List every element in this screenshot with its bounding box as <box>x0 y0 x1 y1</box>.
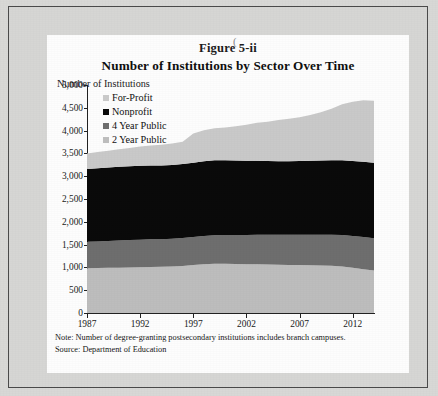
x-tick-label: 1987 <box>78 319 97 329</box>
legend-label-four-year-public: 4 Year Public <box>112 120 167 131</box>
x-tick-mark <box>300 314 301 318</box>
source-line: Source: Department of Education <box>55 344 346 356</box>
y-tick-label: 3,000 <box>62 171 83 181</box>
note-line: Note: Number of degree-granting postseco… <box>55 332 346 344</box>
legend-item-nonprofit: Nonprofit <box>103 105 167 118</box>
x-tick-label: 2007 <box>290 319 309 329</box>
legend-swatch-four-year-public <box>103 123 109 129</box>
legend-label-two-year-public: 2 Year Public <box>112 134 167 145</box>
legend-swatch-for-profit <box>103 95 109 101</box>
y-tick-label: 2,000 <box>62 217 83 227</box>
x-tick-mark <box>87 314 88 318</box>
document-page: ( Figure 5-ii Number of Institutions by … <box>47 35 409 373</box>
y-tick-label: 5,000 <box>62 80 83 90</box>
y-tick-label: 0 <box>78 308 83 318</box>
legend-label-nonprofit: Nonprofit <box>112 106 152 117</box>
y-tick-label: 3,500 <box>62 148 83 158</box>
y-tick-label: 1,000 <box>62 262 83 272</box>
x-tick-label: 1992 <box>131 319 150 329</box>
y-tick-label: 2,500 <box>62 194 83 204</box>
legend-item-four-year-public: 4 Year Public <box>103 119 167 132</box>
chart-legend: For-Profit Nonprofit 4 Year Public 2 Yea… <box>103 91 167 147</box>
area-series-2-year-public <box>87 264 374 313</box>
legend-item-for-profit: For-Profit <box>103 91 167 104</box>
x-tick-mark <box>353 314 354 318</box>
x-tick-mark <box>246 314 247 318</box>
legend-swatch-two-year-public <box>103 137 109 143</box>
document-frame: ( Figure 5-ii Number of Institutions by … <box>8 6 428 388</box>
figure-notes: Note: Number of degree-granting postseco… <box>55 332 346 356</box>
x-tick-label: 2012 <box>343 319 362 329</box>
x-tick-mark <box>140 314 141 318</box>
screenshot-root: ( Figure 5-ii Number of Institutions by … <box>0 0 438 396</box>
legend-label-for-profit: For-Profit <box>112 92 153 103</box>
y-tick-label: 4,500 <box>62 103 83 113</box>
y-axis-tick-labels: 5,0004,5004,0003,5003,0002,5002,0001,500… <box>47 85 83 313</box>
x-tick-label: 1997 <box>184 319 203 329</box>
y-tick-label: 1,500 <box>62 240 83 250</box>
chart-area: Number of Institutions 5,0004,5004,0003,… <box>47 35 409 373</box>
legend-swatch-nonprofit <box>103 109 109 115</box>
y-tick-label: 4,000 <box>62 126 83 136</box>
y-tick-label: 500 <box>69 285 83 295</box>
x-tick-mark <box>193 314 194 318</box>
x-axis-line <box>87 313 375 314</box>
x-tick-label: 2002 <box>237 319 256 329</box>
legend-item-two-year-public: 2 Year Public <box>103 133 167 146</box>
area-series-nonprofit <box>87 160 374 242</box>
